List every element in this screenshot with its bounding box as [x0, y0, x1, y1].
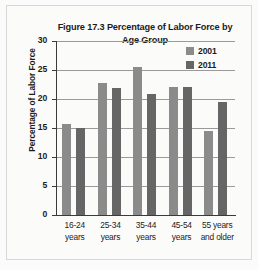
y-tick-label: 20 [21, 93, 47, 103]
bar-group [164, 41, 200, 215]
bar-group [128, 41, 164, 215]
y-tick-label: 25 [21, 64, 47, 74]
bar-2011 [218, 102, 227, 215]
x-axis-line [56, 215, 236, 216]
x-tick-label-line-2: and older [195, 232, 239, 244]
bar-2001 [98, 83, 107, 215]
y-tick-label: 15 [21, 122, 47, 132]
y-tick-label: 5 [21, 180, 47, 190]
y-tick-label: 0 [21, 209, 47, 219]
bar-2001 [169, 87, 178, 215]
figure-container: Figure 17.3 Percentage of Labor Force by… [0, 0, 258, 270]
bar-group [199, 41, 235, 215]
bar-2001 [133, 67, 142, 215]
bar-2001 [204, 131, 213, 215]
y-axis-line [56, 41, 57, 216]
chart-title-line-1: Figure 17.3 Percentage of Labor Force [58, 22, 220, 32]
bar-2011 [183, 87, 192, 215]
bar-group [93, 41, 129, 215]
bar-2011 [147, 94, 156, 215]
plot-area [57, 41, 235, 215]
x-tick-label-line-1: 55 years [195, 220, 239, 232]
x-tick-label: 55 yearsand older [195, 220, 239, 243]
bar-2011 [112, 88, 121, 215]
bar-group [57, 41, 93, 215]
y-tick-label: 10 [21, 151, 47, 161]
bar-2011 [76, 128, 85, 215]
bar-2001 [62, 124, 71, 215]
y-tick-label: 30 [21, 35, 47, 45]
